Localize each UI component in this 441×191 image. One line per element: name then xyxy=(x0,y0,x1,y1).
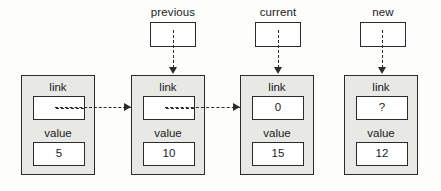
pointer-arrow-current-to-node xyxy=(278,30,279,68)
pointer-arrow-previous-to-node xyxy=(173,30,174,68)
node-link-label: link xyxy=(241,81,313,93)
node-value-label: value xyxy=(132,127,204,139)
node-value-label: value xyxy=(241,127,313,139)
pointer-arrowhead-previous xyxy=(169,67,177,74)
pointer-arrow-new-to-node xyxy=(382,30,383,68)
pointer-label-new: new xyxy=(360,6,406,18)
node-link-slot: 0 xyxy=(252,96,304,120)
link-arrow-node1-to-node2 xyxy=(165,107,240,108)
list-node: link value 5 xyxy=(21,75,95,175)
link-arrowhead-node0-to-node1 xyxy=(124,103,131,111)
node-link-label: link xyxy=(22,81,94,93)
list-node: link ? value 12 xyxy=(344,75,418,175)
node-link-slot: ? xyxy=(356,96,408,120)
node-link-label: link xyxy=(345,81,417,93)
list-node: link value 10 xyxy=(131,75,205,175)
pointer-label-previous: previous xyxy=(150,6,196,18)
pointer-label-current: current xyxy=(255,6,301,18)
list-node: link 0 value 15 xyxy=(240,75,314,175)
link-arrowhead-node1-to-node2 xyxy=(233,103,240,111)
pointer-arrowhead-current xyxy=(274,67,282,74)
pointer-arrowhead-new xyxy=(378,67,386,74)
node-link-pointer-stub xyxy=(166,108,194,109)
linked-list-diagram: previous current new link value 5 link v… xyxy=(0,0,441,191)
link-arrow-node0-to-node1 xyxy=(55,107,131,108)
node-value-label: value xyxy=(22,127,94,139)
pointer-box-new xyxy=(360,22,406,47)
node-link-label: link xyxy=(132,81,204,93)
node-link-pointer-stub xyxy=(56,108,84,109)
node-value-slot: 5 xyxy=(33,142,85,166)
node-value-label: value xyxy=(345,127,417,139)
node-value-slot: 10 xyxy=(143,142,195,166)
node-value-slot: 15 xyxy=(252,142,304,166)
pointer-variable-new: new xyxy=(360,6,406,47)
node-value-slot: 12 xyxy=(356,142,408,166)
